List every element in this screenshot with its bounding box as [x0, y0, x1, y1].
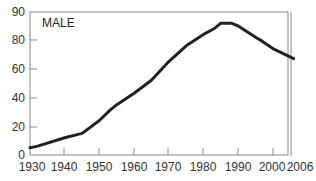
x-tick-label: 1940	[51, 160, 78, 174]
series-annotation: MALE	[42, 16, 75, 30]
line-chart: 0 20 40 60 80 90 1930 1940 1950 1960 197…	[0, 0, 316, 181]
x-tick-label: 2006	[287, 160, 314, 174]
y-axis: 0 20 40 60 80 90	[12, 5, 37, 162]
x-tick-label: 1930	[19, 160, 46, 174]
x-tick-label: 1960	[121, 160, 148, 174]
x-axis: 1930 1940 1950 1960 1970 1980 1990 2000 …	[19, 148, 314, 174]
x-tick-label: 1980	[190, 160, 217, 174]
x-tick-label: 1970	[155, 160, 182, 174]
y-tick-label: 90	[12, 5, 26, 19]
x-tick-label: 2000	[259, 160, 286, 174]
y-tick-label: 40	[12, 91, 26, 105]
y-tick-label: 20	[12, 120, 26, 134]
male-series-line	[30, 23, 294, 148]
y-tick-label: 80	[12, 33, 26, 47]
x-tick-label: 1950	[86, 160, 113, 174]
y-tick-label: 60	[12, 62, 26, 76]
x-tick-label: 1990	[225, 160, 252, 174]
